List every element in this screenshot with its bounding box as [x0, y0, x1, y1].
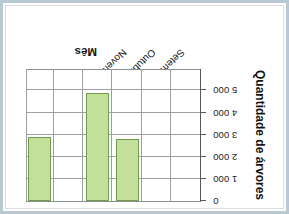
tick-label-1000: 1 000	[213, 173, 237, 184]
tick-label-0: 0	[213, 196, 218, 207]
tick-1000	[200, 178, 206, 179]
gridline-4000	[26, 112, 200, 113]
gridline-col-4	[82, 69, 83, 201]
gridline-col-1	[170, 69, 171, 201]
bar-novembro[interactable]	[28, 137, 51, 201]
plot-area: 0 1 000 2 000 3 000 4 000 5 000	[26, 69, 201, 202]
tick-label-5000: 5 000	[213, 85, 237, 96]
value-axis-title: Quantidade de árvores	[251, 69, 269, 202]
tick-0	[200, 200, 206, 201]
chart-area: Quantidade de árvores Mês Setembro Outub…	[6, 6, 283, 208]
value-axis-title-label: Quantidade de árvores	[253, 70, 267, 200]
gridline-col-3	[112, 69, 113, 201]
gridline-1000	[26, 178, 200, 179]
tick-2000	[200, 156, 206, 157]
tick-4000	[200, 112, 206, 113]
tick-label-3000: 3 000	[213, 129, 237, 140]
gridline-5000	[26, 90, 200, 91]
tick-label-2000: 2 000	[213, 151, 237, 162]
gridline-col-5	[53, 69, 54, 201]
tick-5000	[200, 90, 206, 91]
bar-outubro[interactable]	[86, 93, 109, 201]
tick-3000	[200, 134, 206, 135]
category-axis-title: Mês	[75, 46, 97, 58]
gridline-2000	[26, 156, 200, 157]
gridline-col-2	[141, 69, 142, 201]
plot-right-edge	[26, 69, 27, 201]
bar-setembro[interactable]	[116, 139, 139, 201]
tick-label-4000: 4 000	[213, 107, 237, 118]
rotated-figure-container: Quantidade de árvores Mês Setembro Outub…	[6, 6, 283, 208]
plot-bottom-axis	[26, 69, 200, 70]
figure-page: Quantidade de árvores Mês Setembro Outub…	[0, 0, 289, 214]
gridline-3000	[26, 134, 200, 135]
